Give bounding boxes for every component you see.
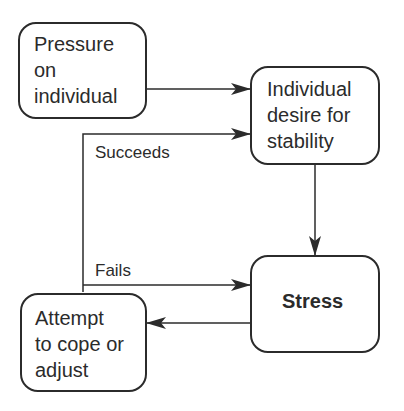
flow-diagram: Pressure on individual Individual desire… [0,0,404,411]
node-pressure-label: Pressure on individual [34,31,117,109]
node-desire-label: Individual desire for stability [267,76,352,154]
node-stress-label: Stress [282,288,343,314]
node-attempt-label: Attempt to cope or adjust [35,305,124,383]
edge-label-succeeds: Succeeds [95,143,170,163]
edge-label-fails: Fails [95,261,131,281]
